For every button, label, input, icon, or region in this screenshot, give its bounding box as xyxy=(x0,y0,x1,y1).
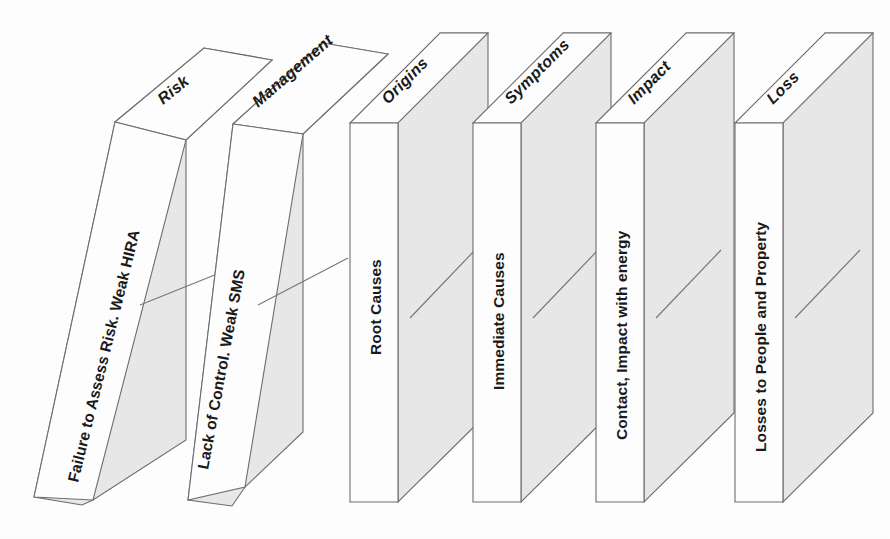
domino-5[interactable]: Contact, Impact with energy Impact xyxy=(596,33,734,502)
domino-sequence-diagram: Failure to Assess Risk. Weak HIRA Risk L… xyxy=(0,0,890,539)
domino-3-front-label: Root Causes xyxy=(367,259,384,355)
domino-6[interactable]: Losses to People and Property Loss xyxy=(735,33,873,502)
diagram-canvas: Failure to Assess Risk. Weak HIRA Risk L… xyxy=(0,0,890,539)
domino-4[interactable]: Immediate Causes Symptoms xyxy=(473,33,611,502)
domino-4-front-label: Immediate Causes xyxy=(490,252,507,390)
domino-6-front-label: Losses to People and Property xyxy=(752,221,769,452)
domino-3[interactable]: Root Causes Origins xyxy=(350,33,488,502)
domino-5-front-label: Contact, Impact with energy xyxy=(613,230,630,440)
